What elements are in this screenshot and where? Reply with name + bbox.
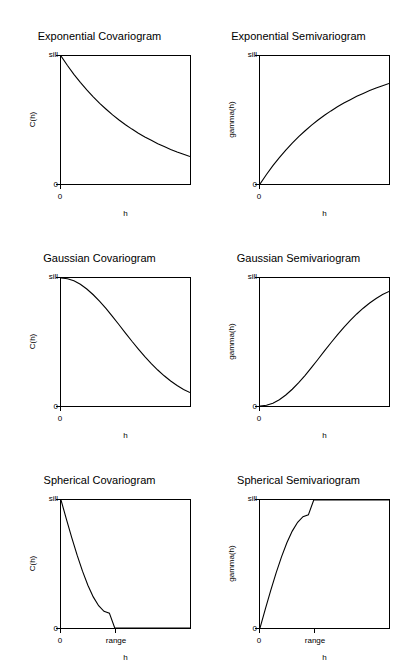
plot-area bbox=[259, 55, 390, 185]
y-axis-label: C(h) bbox=[26, 54, 40, 185]
data-curve bbox=[260, 500, 389, 628]
x-tick-mark-0 bbox=[60, 629, 61, 633]
x-tick-mark-0 bbox=[60, 407, 61, 411]
y-axis-label: C(h) bbox=[26, 498, 40, 629]
y-tick-label-bottom: 0 bbox=[42, 403, 58, 411]
panel-exponential-semivariogram: Exponential Semivariogram sill 0 gamma(h… bbox=[199, 0, 398, 222]
panel-gaussian-covariogram: Gaussian Covariogram sill 0 C(h) 0 h bbox=[0, 222, 199, 444]
x-tick-label-0: 0 bbox=[40, 636, 80, 645]
curve-svg bbox=[260, 500, 389, 628]
x-axis-label: h bbox=[60, 653, 191, 662]
data-curve bbox=[260, 84, 389, 184]
curve-svg bbox=[260, 56, 389, 184]
plot-area bbox=[259, 277, 390, 407]
x-tick-mark-0 bbox=[60, 185, 61, 189]
x-tick-label-0: 0 bbox=[40, 192, 80, 201]
panel-title: Spherical Covariogram bbox=[0, 474, 199, 486]
data-curve bbox=[61, 56, 190, 156]
y-axis-label: C(h) bbox=[26, 276, 40, 407]
x-tick-mark-0 bbox=[259, 629, 260, 633]
data-curve bbox=[260, 291, 389, 406]
y-tick-label-bottom: 0 bbox=[42, 181, 58, 189]
y-tick-label-bottom: 0 bbox=[241, 181, 257, 189]
panel-gaussian-semivariogram: Gaussian Semivariogram sill 0 gamma(h) 0… bbox=[199, 222, 398, 444]
x-tick-label-0: 0 bbox=[239, 192, 279, 201]
x-tick-mark-0 bbox=[259, 185, 260, 189]
panel-exponential-covariogram: Exponential Covariogram sill 0 C(h) 0 h bbox=[0, 0, 199, 222]
x-axis-label: h bbox=[60, 209, 191, 218]
panel-title: Exponential Semivariogram bbox=[199, 30, 398, 42]
panel-title: Gaussian Covariogram bbox=[0, 252, 199, 264]
data-curve bbox=[61, 278, 190, 393]
x-tick-mark-range bbox=[314, 629, 315, 633]
y-axis-label: gamma(h) bbox=[225, 498, 239, 629]
x-axis-label: h bbox=[259, 653, 390, 662]
panel-spherical-covariogram: Spherical Covariogram sill 0 C(h) 0 rang… bbox=[0, 444, 199, 666]
panel-title: Spherical Semivariogram bbox=[199, 474, 398, 486]
x-tick-label-0: 0 bbox=[239, 636, 279, 645]
curve-svg bbox=[61, 56, 190, 184]
x-tick-label-0: 0 bbox=[40, 414, 80, 423]
y-tick-label-bottom: 0 bbox=[241, 625, 257, 633]
x-tick-label-range: range bbox=[295, 636, 335, 645]
y-tick-label-bottom: 0 bbox=[42, 625, 58, 633]
x-tick-label-0: 0 bbox=[239, 414, 279, 423]
y-axis-label: gamma(h) bbox=[225, 276, 239, 407]
panel-title: Gaussian Semivariogram bbox=[199, 252, 398, 264]
x-axis-label: h bbox=[259, 209, 390, 218]
x-axis-label: h bbox=[60, 431, 191, 440]
plot-area bbox=[60, 277, 191, 407]
curve-svg bbox=[61, 500, 190, 628]
y-axis-label: gamma(h) bbox=[225, 54, 239, 185]
plot-area bbox=[60, 499, 191, 629]
curve-svg bbox=[260, 278, 389, 406]
curve-svg bbox=[61, 278, 190, 406]
x-tick-mark-range bbox=[115, 629, 116, 633]
y-tick-label-bottom: 0 bbox=[241, 403, 257, 411]
panel-spherical-semivariogram: Spherical Semivariogram sill 0 gamma(h) … bbox=[199, 444, 398, 666]
plot-area bbox=[259, 499, 390, 629]
data-curve bbox=[61, 500, 190, 628]
x-tick-mark-0 bbox=[259, 407, 260, 411]
x-tick-label-range: range bbox=[96, 636, 136, 645]
panel-title: Exponential Covariogram bbox=[0, 30, 199, 42]
figure-grid: Exponential Covariogram sill 0 C(h) 0 h … bbox=[0, 0, 398, 666]
plot-area bbox=[60, 55, 191, 185]
x-axis-label: h bbox=[259, 431, 390, 440]
